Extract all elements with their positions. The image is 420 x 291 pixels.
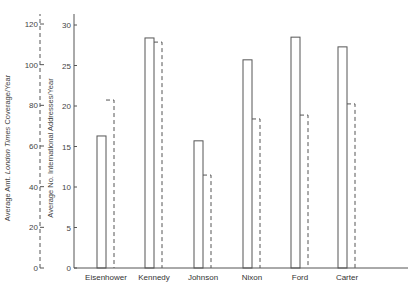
bar-coverage-carter [347, 104, 355, 268]
right-axis-tick-label: 15 [62, 143, 71, 152]
category-label-nixon: Nixon [242, 273, 262, 282]
bar-coverage-johnson [203, 175, 211, 268]
left-axis-tick-label: 20 [29, 223, 38, 232]
bar-addresses-carter [338, 47, 347, 268]
bar-addresses-johnson [194, 141, 203, 268]
bar-addresses-eisenhower [97, 136, 106, 268]
left-outer-axis: 020406080100120 [25, 14, 44, 273]
left-axis-tick-label: 60 [29, 142, 38, 151]
bars-group [97, 37, 355, 268]
bar-addresses-nixon [243, 60, 252, 268]
bar-coverage-eisenhower [106, 100, 114, 268]
left-axis-tick-label: 100 [25, 61, 39, 70]
left-axis-tick-label: 0 [34, 264, 39, 273]
bar-addresses-kennedy [145, 38, 154, 268]
left-axis-title: Average Amt. London Times Coverage/Year [3, 74, 12, 221]
left-axis-tick-label: 40 [29, 183, 38, 192]
category-label-kennedy: Kennedy [138, 273, 170, 282]
bar-addresses-ford [291, 37, 300, 268]
category-label-ford: Ford [292, 273, 308, 282]
category-label-johnson: Johnson [188, 273, 218, 282]
bar-coverage-kennedy [154, 42, 162, 268]
bar-coverage-ford [300, 115, 308, 268]
bar-chart: 020406080100120 051015202530 EisenhowerK… [0, 0, 420, 291]
right-axis-tick-label: 10 [62, 183, 71, 192]
left-axis-tick-label: 120 [25, 20, 39, 29]
category-label-carter: Carter [336, 273, 359, 282]
right-axis-tick-label: 25 [62, 62, 71, 71]
left-axis-tick-label: 80 [29, 101, 38, 110]
right-axis-tick-label: 30 [62, 21, 71, 30]
bar-coverage-nixon [252, 119, 260, 268]
x-axis: EisenhowerKennedyJohnsonNixonFordCarter [74, 268, 408, 282]
right-inner-axis: 051015202530 [62, 14, 77, 273]
category-label-eisenhower: Eisenhower [85, 273, 127, 282]
right-axis-title: Average No. International Addresses/Year [46, 78, 55, 218]
right-axis-tick-label: 0 [67, 264, 72, 273]
right-axis-tick-label: 5 [67, 224, 72, 233]
right-axis-tick-label: 20 [62, 102, 71, 111]
